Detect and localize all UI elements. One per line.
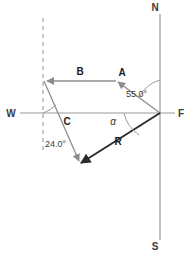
- angle-label-24: 24.0°: [45, 139, 67, 149]
- vector-label-c: C: [63, 116, 70, 127]
- vector-label-a: A: [118, 67, 125, 78]
- vector-diagram-canvas: N S W F A B C R 55.0° α 24.0°: [0, 0, 189, 258]
- vector-label-r: R: [114, 136, 122, 147]
- angle-24-arc: [43, 105, 56, 113]
- vector-diagram-container: N S W F A B C R 55.0° α 24.0°: [0, 0, 189, 258]
- compass-label-origin-f: F: [178, 108, 184, 119]
- vector-label-b: B: [76, 66, 83, 77]
- angle-label-55: 55.0°: [126, 89, 148, 99]
- compass-label-west: W: [6, 108, 16, 119]
- compass-label-south: S: [152, 241, 159, 252]
- compass-label-north: N: [151, 2, 158, 13]
- angle-label-alpha: α: [110, 116, 116, 127]
- compass-axes: [20, 14, 175, 240]
- vector-c-line: [44, 81, 79, 161]
